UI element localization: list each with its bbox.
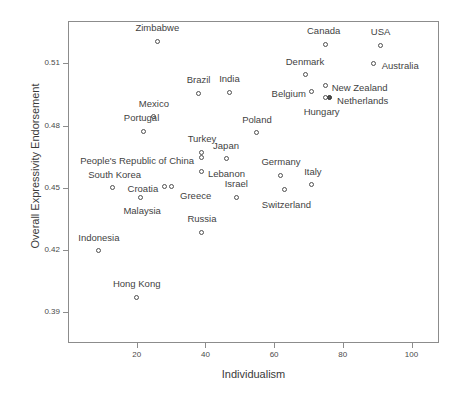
y-axis-title: Overall Expressivity Endorsement [29,5,41,327]
data-point [169,184,174,189]
data-point-label: Hungary [304,107,340,117]
data-point [227,90,232,95]
data-point-label: People's Republic of China [80,156,194,166]
x-tick-label: 80 [323,350,363,359]
data-point [138,195,143,200]
data-point [196,91,201,96]
x-tick-mark [412,343,413,348]
data-point-label: Turkey [188,134,217,144]
y-tick-mark [63,312,68,313]
data-point-label: Brazil [187,75,211,85]
data-point-label: Italy [304,167,321,177]
y-tick-mark [63,250,68,251]
data-point [224,156,229,161]
x-tick-label: 20 [117,350,157,359]
data-point [303,72,308,77]
data-point-label: Indonesia [78,233,119,243]
data-point [141,129,146,134]
data-point-label: Japan [213,141,239,151]
y-tick-mark [63,188,68,189]
y-tick-mark [63,126,68,127]
x-tick-mark [205,343,206,348]
data-point [234,195,239,200]
data-point [162,184,167,189]
x-tick-label: 60 [254,350,294,359]
data-point-label: South Korea [88,170,141,180]
data-point-label: USA [371,27,391,37]
y-tick-mark [63,63,68,64]
data-point-label: Croatia [128,184,159,194]
data-point-label: New Zealand [332,83,388,93]
data-point-label: Israel [225,179,248,189]
data-point-label: Denmark [286,57,325,67]
x-tick-mark [343,343,344,348]
x-tick-label: 100 [392,350,432,359]
x-axis-title: Individualism [68,368,439,380]
data-point [323,83,328,88]
scatter-plot-screenshot: 204060801000.510.480.450.420.39 Zimbabwe… [0,0,464,395]
x-tick-label: 40 [185,350,225,359]
data-point-label: Greece [180,191,211,201]
data-point-label: Germany [261,157,300,167]
data-point-label: Switzerland [262,200,311,210]
data-point-label: Russia [187,214,216,224]
data-point-label: Canada [307,26,340,36]
data-point-label: Malaysia [123,206,161,216]
data-point-label: Portugal [124,113,159,123]
data-point-label: Poland [242,115,272,125]
data-point-label: Hong Kong [113,279,161,289]
x-tick-mark [274,343,275,348]
data-point-label: Belgium [272,89,306,99]
data-point-label: Mexico [139,99,169,109]
data-point-label: India [219,74,240,84]
data-point-label: Australia [382,61,419,71]
data-point-label: Zimbabwe [135,23,179,33]
x-tick-mark [137,343,138,348]
data-point-label: Netherlands [337,96,388,106]
